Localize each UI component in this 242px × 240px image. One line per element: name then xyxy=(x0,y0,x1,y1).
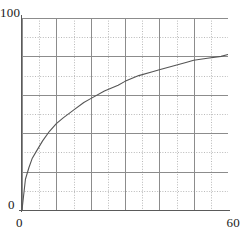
x-axis-line xyxy=(19,210,230,211)
y-axis-line xyxy=(21,15,22,212)
y-axis-min-label: 0 xyxy=(8,198,15,211)
data-curve xyxy=(22,18,228,210)
x-axis-max-label: 60 xyxy=(227,216,240,229)
plot-area xyxy=(22,18,228,210)
x-axis-min-label: 0 xyxy=(16,216,23,229)
y-axis-max-label: 100 xyxy=(0,6,20,19)
chart-container: 100 0 0 60 xyxy=(0,0,242,240)
